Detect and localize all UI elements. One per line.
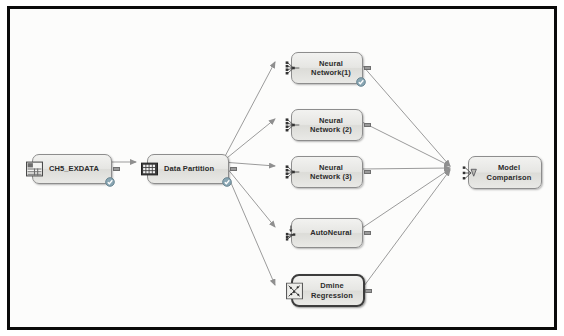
node-label: Neural Network (2) [292,116,362,135]
diagram-canvas[interactable]: CH5_EXDATA [10,9,554,327]
edge-partition-to-nn1 [222,62,275,162]
output-port[interactable] [364,66,371,70]
node-neural-network-1[interactable]: Neural Network(1) [291,52,363,84]
edge-nn2-to-comparison [362,122,450,166]
edge-partition-to-nn3 [222,162,275,166]
edge-autoneural-to-comparison [362,169,450,228]
node-label: AutoNeural [292,228,362,238]
edge-partition-to-nn2 [222,119,275,162]
autoneural-icon [285,225,302,242]
neural-network-icon [285,117,302,134]
node-dmine-regression[interactable]: Dmine Regression [291,274,365,307]
edge-dmine-to-comparison [364,170,450,286]
node-autoneural[interactable]: AutoNeural [291,218,363,248]
status-check-badge [105,177,115,187]
output-port[interactable] [113,167,120,171]
node-label: Dmine Regression [293,281,363,300]
status-check-badge [356,77,366,87]
node-label: Data Partition [148,164,228,174]
table-icon [26,161,43,178]
status-check-badge [222,177,232,187]
edge-nn3-to-comparison [362,168,450,169]
edge-nn1-to-comparison [362,65,450,166]
output-port[interactable] [230,167,237,171]
diagram-frame: CH5_EXDATA [7,6,557,330]
data-partition-icon [141,161,158,178]
output-port[interactable] [364,170,371,174]
neural-network-icon [285,164,302,181]
dmine-regression-icon [286,282,303,299]
node-neural-network-2[interactable]: Neural Network (2) [291,109,363,141]
output-port[interactable] [364,123,371,127]
node-label: Neural Network (3) [292,163,362,182]
neural-network-icon [285,60,302,77]
node-label: CH5_EXDATA [33,164,111,174]
node-label: Model Comparison [469,163,541,182]
node-data-partition[interactable]: Data Partition [147,154,229,184]
model-comparison-icon [462,164,479,181]
output-port[interactable] [365,289,372,293]
node-neural-network-3[interactable]: Neural Network (3) [291,156,363,188]
edge-partition-to-autoneural [222,162,275,227]
node-model-comparison[interactable]: Model Comparison [468,156,542,189]
output-port[interactable] [364,231,371,235]
node-data-source[interactable]: CH5_EXDATA [32,154,112,184]
node-label: Neural Network(1) [292,59,362,78]
